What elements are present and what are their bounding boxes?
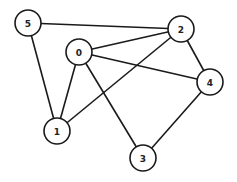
graph-diagram: 012345 [0,0,237,182]
node-2: 2 [168,16,194,42]
edge-0-4 [79,52,210,82]
node-4: 4 [197,69,223,95]
node-label: 4 [207,78,213,88]
node-label: 5 [25,19,31,29]
node-label: 1 [54,127,60,137]
edge-5-1 [28,23,57,131]
node-1: 1 [44,118,70,144]
node-0: 0 [66,39,92,65]
edge-5-2 [28,23,181,29]
edge-0-2 [79,29,181,52]
node-label: 3 [140,154,146,164]
node-label: 2 [178,25,184,35]
node-3: 3 [130,145,156,171]
edge-4-3 [143,82,210,158]
node-5: 5 [15,10,41,36]
node-label: 0 [76,48,82,58]
